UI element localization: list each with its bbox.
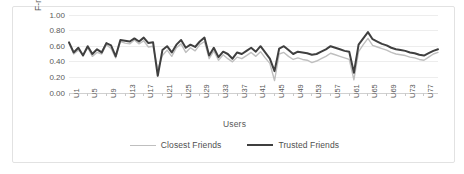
x-tick-label: U57 [334, 84, 342, 98]
x-tick-label: U69 [390, 84, 398, 98]
x-tick-label: U53 [315, 84, 323, 98]
x-tick-label: U17 [147, 84, 155, 98]
chart-container: F-measure 0.000.200.400.600.801.00 U1U5U… [12, 6, 455, 163]
x-tick-label: U13 [129, 84, 137, 98]
x-tick-label: U37 [241, 84, 249, 98]
x-tick-label: U29 [203, 84, 211, 98]
legend-item-trusted-friends[interactable]: Trusted Friends [247, 140, 339, 150]
x-tick-label: U25 [185, 84, 193, 98]
chart-legend: Closest FriendsTrusted Friends [13, 137, 456, 153]
x-tick-label: U45 [278, 84, 286, 98]
x-tick-label: U77 [427, 84, 435, 98]
legend-line-swatch [247, 144, 273, 146]
legend-label: Closest Friends [161, 140, 222, 150]
x-tick-label: U33 [222, 84, 230, 98]
chart-inner: F-measure 0.000.200.400.600.801.00 U1U5U… [13, 7, 456, 164]
legend-item-closest-friends[interactable]: Closest Friends [130, 140, 222, 150]
x-tick-label: U41 [259, 84, 267, 98]
x-tick-label: U21 [166, 84, 174, 98]
x-tick-label: U5 [91, 88, 99, 98]
legend-label: Trusted Friends [278, 140, 339, 150]
x-tick-label: U73 [409, 84, 417, 98]
legend-line-swatch [130, 145, 156, 146]
x-tick-label: U65 [371, 84, 379, 98]
x-axis-title: Users [13, 119, 456, 129]
plot-area [13, 7, 456, 117]
x-tick-label: U61 [353, 84, 361, 98]
x-tick-label: U49 [297, 84, 305, 98]
x-tick-label: U1 [73, 88, 81, 98]
x-tick-label: U9 [110, 88, 118, 98]
